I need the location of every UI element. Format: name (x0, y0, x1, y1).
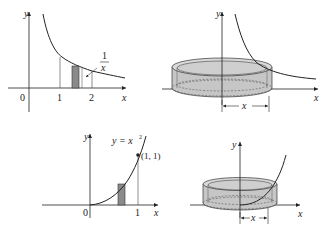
diagram-canvas: y x 0 1 2 1 x x y x y (0, 0, 324, 236)
panel-3-parabola-area: y x 0 1 y = x 2 (1, 1) (42, 131, 161, 218)
point-1-1 (136, 153, 140, 157)
x-axis-label: x (313, 92, 319, 103)
radius-label: x (250, 212, 256, 223)
panel-4-cylinder-shell-parabola: x y x (190, 139, 303, 224)
shaded-strip (72, 66, 79, 88)
x-axis-label: x (297, 208, 303, 219)
y-axis-label: y (83, 131, 89, 142)
origin-label: 0 (83, 207, 88, 218)
y-axis-label: y (215, 8, 221, 19)
panel-1-area-graph: y x 0 1 2 1 x (8, 8, 127, 112)
radius-label: x (241, 100, 247, 111)
x-axis-label: x (121, 92, 127, 103)
curve-label-exponent: 2 (139, 134, 142, 140)
shaded-strip (118, 184, 125, 205)
fraction-numerator: 1 (102, 50, 107, 61)
origin-label: 0 (20, 92, 25, 103)
tick-1-label: 1 (135, 207, 140, 218)
x-axis-label: x (153, 207, 159, 218)
panel-2-cylinder-shell: x y x (162, 8, 319, 112)
point-label: (1, 1) (141, 151, 161, 161)
y-axis-label: y (231, 139, 237, 150)
y-axis-label: y (23, 8, 29, 19)
curve-label: y = x (111, 135, 133, 146)
curve-1-over-x (43, 14, 125, 78)
tick-1-label: 1 (57, 92, 62, 103)
tick-2-label: 2 (89, 92, 94, 103)
fraction-denominator: x (100, 62, 106, 73)
